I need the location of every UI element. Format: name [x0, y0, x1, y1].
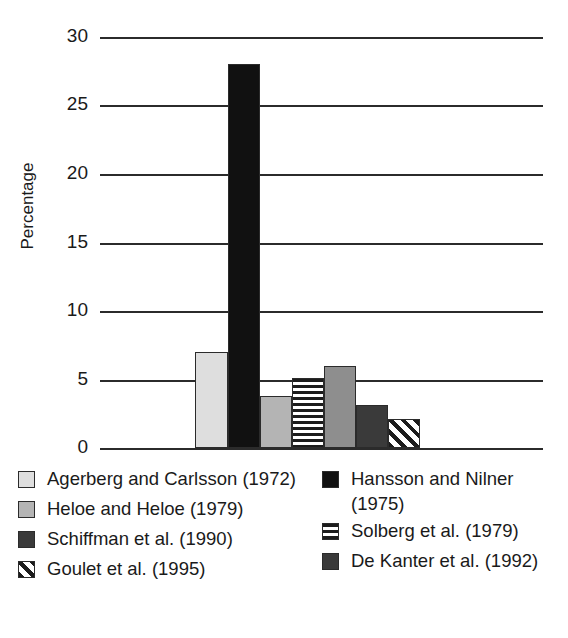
y-tick-20: 20: [42, 163, 88, 182]
bar-chart: Percentage 30 25 20 15 10 5 0: [0, 0, 568, 638]
legend-label: Heloe and Heloe (1979): [47, 496, 300, 521]
y-tick-0: 0: [42, 437, 88, 456]
y-tick-5: 5: [42, 369, 88, 388]
legend-label: Solberg et al. (1979): [351, 518, 562, 543]
legend-item-de-kanter-1992: De Kanter et al. (1992): [322, 548, 562, 576]
legend-swatch-icon: [18, 471, 35, 488]
y-tick-30: 30: [42, 26, 88, 45]
legend-swatch-icon: [18, 501, 35, 518]
bar-hansson-nilner-1975: [228, 64, 260, 448]
legend-item-heloe-heloe-1979: Heloe and Heloe (1979): [18, 496, 300, 524]
y-axis-label: Percentage: [18, 126, 38, 286]
y-tick-25: 25: [42, 94, 88, 113]
bar-heloe-heloe-1979: [260, 396, 292, 448]
bar-group: [195, 0, 421, 462]
legend-item-hansson-nilner-1975: Hansson and Nilner (1975): [322, 466, 562, 516]
y-tick-10: 10: [42, 300, 88, 319]
legend-label: Hansson and Nilner (1975): [351, 466, 562, 516]
legend: Agerberg and Carlsson (1972) Heloe and H…: [0, 466, 568, 638]
legend-swatch-icon: [18, 531, 35, 548]
legend-label: Goulet et al. (1995): [47, 556, 300, 581]
bar-de-kanter-1992: [356, 405, 388, 448]
legend-swatch-icon: [322, 523, 339, 540]
legend-item-agerberg-carlsson-1972: Agerberg and Carlsson (1972): [18, 466, 300, 494]
legend-item-schiffman-1990: Schiffman et al. (1990): [18, 526, 300, 554]
legend-column-left: Agerberg and Carlsson (1972) Heloe and H…: [18, 466, 300, 586]
legend-label: Schiffman et al. (1990): [47, 526, 300, 551]
y-tick-15: 15: [42, 232, 88, 251]
bar-goulet-1995: [388, 419, 420, 448]
bar-schiffman-1990: [324, 366, 356, 448]
legend-item-goulet-1995: Goulet et al. (1995): [18, 556, 300, 584]
bar-agerberg-carlsson-1972: [195, 352, 228, 448]
legend-swatch-icon: [322, 553, 339, 570]
bar-solberg-1979: [292, 378, 324, 448]
legend-label: De Kanter et al. (1992): [351, 548, 562, 573]
legend-column-right: Hansson and Nilner (1975) Solberg et al.…: [322, 466, 562, 578]
plot-area: Percentage 30 25 20 15 10 5 0: [0, 0, 568, 462]
legend-label: Agerberg and Carlsson (1972): [47, 466, 300, 491]
legend-swatch-icon: [322, 471, 339, 488]
legend-swatch-icon: [18, 561, 35, 578]
legend-item-solberg-1979: Solberg et al. (1979): [322, 518, 562, 546]
